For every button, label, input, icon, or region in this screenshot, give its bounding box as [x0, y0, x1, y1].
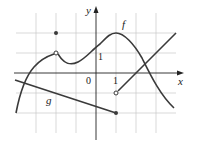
y-axis-label: y: [85, 4, 91, 16]
f-open-point: [54, 51, 58, 55]
f-curve: [16, 31, 174, 113]
g-line-label: g: [46, 94, 52, 106]
f-filled-point: [54, 31, 58, 35]
g-open-point: [114, 91, 118, 95]
f-curve-label: f: [122, 18, 127, 30]
y-tick-1-label: 1: [98, 51, 103, 62]
g-filled-point: [114, 111, 118, 115]
y-axis-arrow-icon: [94, 6, 99, 13]
axes: [14, 6, 184, 140]
x-axis-label: x: [177, 75, 183, 87]
x-tick-1-label: 1: [113, 75, 118, 86]
origin-label: 0: [86, 75, 91, 86]
g-line: [15, 33, 176, 115]
function-graph: y x 0 1 1 f g: [0, 0, 201, 148]
